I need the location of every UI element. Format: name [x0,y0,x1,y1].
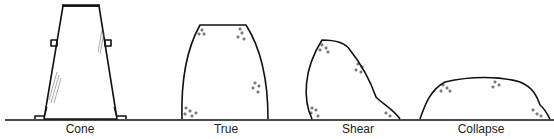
label-true: True [214,122,238,136]
shear-slump-shape [306,40,400,119]
label-collapse: Collapse [458,122,505,136]
cone-shape [35,6,126,120]
slump-diagram [0,0,554,139]
label-shear: Shear [342,122,374,136]
true-slump-shape [182,25,268,119]
collapse-slump-shape [420,78,550,120]
label-cone: Cone [66,122,95,136]
